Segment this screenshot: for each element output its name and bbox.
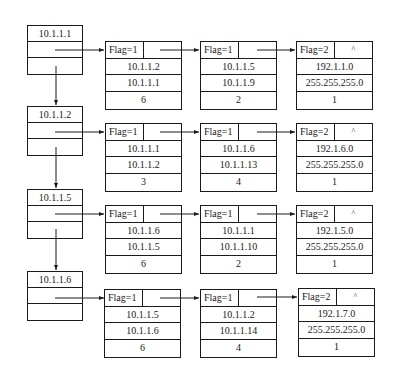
- node-field-a: 192.1.6.0: [297, 141, 372, 158]
- head-node-2: 10.1.1.2: [27, 106, 83, 156]
- node-flag: Flag=1: [105, 290, 143, 306]
- node-flag: Flag=1: [201, 206, 239, 222]
- node-ptr: [239, 124, 276, 140]
- null-ptr-icon: ^: [337, 289, 374, 305]
- node-field-c: 2: [201, 92, 276, 109]
- node-field-a: 10.1.1.6: [201, 141, 276, 158]
- head-node-label: 10.1.1.2: [28, 107, 82, 123]
- node-field-b: 10.1.1.10: [201, 239, 276, 256]
- null-ptr-icon: ^: [335, 124, 372, 140]
- node-flag: Flag=2: [299, 289, 337, 305]
- node-field-b: 10.1.1.6: [105, 323, 180, 340]
- head-node-next-ptr: [28, 206, 82, 222]
- node-field-c: 1: [299, 339, 374, 356]
- list-node: Flag=1 10.1.1.2 10.1.1.14 4: [200, 289, 277, 358]
- node-flag: Flag=1: [201, 290, 239, 306]
- node-ptr: [143, 290, 180, 306]
- head-node-label: 10.1.1.6: [28, 272, 82, 288]
- node-field-a: 192.1.5.0: [297, 223, 372, 240]
- node-field-b: 10.1.1.14: [201, 323, 276, 340]
- list-node: Flag=1 10.1.1.1 10.1.1.2 3: [105, 123, 182, 192]
- node-field-c: 1: [297, 92, 372, 109]
- node-field-a: 10.1.1.2: [201, 307, 276, 324]
- head-node-down-ptr: [28, 58, 82, 74]
- node-field-b: 255.255.255.0: [297, 157, 372, 174]
- head-node-next-ptr: [28, 123, 82, 139]
- node-field-b: 10.1.1.2: [106, 157, 181, 174]
- node-field-b: 255.255.255.0: [297, 239, 372, 256]
- null-ptr-icon: ^: [335, 206, 372, 222]
- node-field-b: 10.1.1.1: [106, 75, 181, 92]
- node-ptr: [144, 42, 181, 58]
- node-ptr: [144, 206, 181, 222]
- list-node: Flag=1 10.1.1.1 10.1.1.10 2: [200, 205, 277, 274]
- list-node-tail: Flag=2^ 192.1.7.0 255.255.255.0 1: [298, 288, 375, 357]
- node-flag: Flag=1: [106, 42, 144, 58]
- list-node-tail: Flag=2^ 192.1.1.0 255.255.255.0 1: [296, 41, 373, 110]
- list-node: Flag=1 10.1.1.5 10.1.1.9 2: [200, 41, 277, 110]
- node-field-b: 10.1.1.13: [201, 157, 276, 174]
- node-ptr: [144, 124, 181, 140]
- node-field-a: 10.1.1.5: [201, 59, 276, 76]
- head-node-3: 10.1.1.5: [27, 189, 83, 239]
- node-field-a: 192.1.7.0: [299, 306, 374, 323]
- node-flag: Flag=1: [201, 124, 239, 140]
- node-field-a: 10.1.1.5: [105, 307, 180, 324]
- list-node-tail: Flag=2^ 192.1.6.0 255.255.255.0 1: [296, 123, 373, 192]
- node-flag: Flag=1: [106, 206, 144, 222]
- list-node: Flag=1 10.1.1.6 10.1.1.13 4: [200, 123, 277, 192]
- list-node: Flag=1 10.1.1.6 10.1.1.5 6: [105, 205, 182, 274]
- node-flag: Flag=2: [297, 124, 335, 140]
- node-field-a: 192.1.1.0: [297, 59, 372, 76]
- node-field-b: 255.255.255.0: [297, 75, 372, 92]
- node-field-b: 255.255.255.0: [299, 322, 374, 339]
- node-ptr: [239, 206, 276, 222]
- head-node-next-ptr: [28, 42, 82, 58]
- head-node-4: 10.1.1.6: [27, 271, 83, 321]
- null-ptr-icon: ^: [335, 42, 372, 58]
- node-field-c: 2: [201, 256, 276, 273]
- node-field-c: 1: [297, 174, 372, 191]
- node-flag: Flag=2: [297, 206, 335, 222]
- head-node-next-ptr: [28, 288, 82, 304]
- list-node: Flag=1 10.1.1.5 10.1.1.6 6: [104, 289, 181, 358]
- node-field-b: 10.1.1.9: [201, 75, 276, 92]
- head-node-down-ptr: [28, 304, 82, 320]
- node-ptr: [239, 290, 276, 306]
- node-field-c: 6: [105, 340, 180, 357]
- head-node-down-ptr: [28, 139, 82, 155]
- node-field-a: 10.1.1.6: [106, 223, 181, 240]
- head-node-label: 10.1.1.5: [28, 190, 82, 206]
- node-field-c: 1: [297, 256, 372, 273]
- node-flag: Flag=2: [297, 42, 335, 58]
- node-field-a: 10.1.1.1: [106, 141, 181, 158]
- node-field-c: 6: [106, 92, 181, 109]
- node-field-a: 10.1.1.1: [201, 223, 276, 240]
- list-node: Flag=1 10.1.1.2 10.1.1.1 6: [105, 41, 182, 110]
- node-field-c: 3: [106, 174, 181, 191]
- node-flag: Flag=1: [201, 42, 239, 58]
- node-field-b: 10.1.1.5: [106, 239, 181, 256]
- node-flag: Flag=1: [106, 124, 144, 140]
- node-field-a: 10.1.1.2: [106, 59, 181, 76]
- node-ptr: [239, 42, 276, 58]
- node-field-c: 6: [106, 256, 181, 273]
- head-node-1: 10.1.1.1: [27, 25, 83, 75]
- head-node-label: 10.1.1.1: [28, 26, 82, 42]
- node-field-c: 4: [201, 340, 276, 357]
- node-field-c: 4: [201, 174, 276, 191]
- head-node-down-ptr: [28, 222, 82, 238]
- list-node-tail: Flag=2^ 192.1.5.0 255.255.255.0 1: [296, 205, 373, 274]
